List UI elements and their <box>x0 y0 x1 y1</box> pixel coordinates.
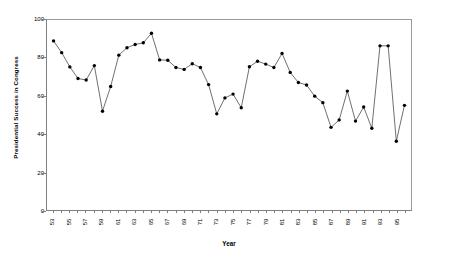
x-tick-label-text: 87 <box>329 219 335 226</box>
x-tick-label: 79 <box>261 214 271 238</box>
data-point <box>133 43 136 46</box>
x-tick-label-text: 73 <box>214 219 220 226</box>
data-point <box>321 101 324 104</box>
x-tick-label: 55 <box>64 214 74 238</box>
data-point <box>109 85 112 88</box>
x-tick-label: 63 <box>130 214 140 238</box>
data-point <box>378 44 381 47</box>
data-point <box>329 126 332 129</box>
x-tick-label: 87 <box>327 214 337 238</box>
x-tick-label: 83 <box>294 214 304 238</box>
x-tick-label: 95 <box>392 214 402 238</box>
line-series-svg <box>47 20 411 210</box>
x-tick-label-text: 79 <box>263 219 269 226</box>
x-tick-label: 61 <box>113 214 123 238</box>
data-point <box>142 41 145 44</box>
x-tick-label-text: 55 <box>66 219 72 226</box>
x-tick-label: 93 <box>376 214 386 238</box>
data-point <box>386 44 389 47</box>
data-point <box>289 71 292 74</box>
data-point <box>354 119 357 122</box>
series-markers <box>52 32 406 143</box>
x-tick-label: 81 <box>277 214 287 238</box>
y-axis-tick-labels: 020406080100 <box>24 19 44 210</box>
data-point <box>191 62 194 65</box>
x-tick-label: 73 <box>212 214 222 238</box>
data-point <box>207 83 210 86</box>
data-point <box>84 78 87 81</box>
data-point <box>199 66 202 69</box>
data-point <box>93 64 96 67</box>
data-point <box>264 62 267 65</box>
x-tick-label-text: 57 <box>82 219 88 226</box>
data-point <box>248 65 251 68</box>
data-point <box>337 118 340 121</box>
data-point <box>101 110 104 113</box>
x-tick-label-text: 89 <box>345 219 351 226</box>
x-tick-label: 77 <box>245 214 255 238</box>
x-axis-title: Year <box>46 240 412 247</box>
data-point <box>256 60 259 63</box>
data-point <box>395 140 398 143</box>
data-point <box>166 59 169 62</box>
x-tick-label-text: 95 <box>394 219 400 226</box>
x-tick-label-text: 71 <box>197 219 203 226</box>
x-tick-label-text: 83 <box>296 219 302 226</box>
x-tick-label-text: 53 <box>50 219 56 226</box>
data-point <box>297 81 300 84</box>
x-tick-label-text: 75 <box>230 219 236 226</box>
data-point <box>313 95 316 98</box>
x-tick-label-text: 61 <box>115 219 121 226</box>
x-tick-label-text: 91 <box>361 219 367 226</box>
series-line <box>54 33 405 141</box>
x-tick-label: 85 <box>310 214 320 238</box>
x-tick-label-text: 77 <box>247 219 253 226</box>
x-tick-label-text: 65 <box>148 219 154 226</box>
data-point <box>158 58 161 61</box>
x-tick-label-text: 93 <box>378 219 384 226</box>
x-tick-label-text: 85 <box>312 219 318 226</box>
x-tick-label: 75 <box>228 214 238 238</box>
data-point <box>125 46 128 49</box>
x-tick-label: 89 <box>343 214 353 238</box>
x-tick-label-text: 59 <box>99 219 105 226</box>
x-tick-label: 59 <box>97 214 107 238</box>
data-point <box>150 32 153 35</box>
data-point <box>231 92 234 95</box>
x-tick-label-text: 63 <box>132 219 138 226</box>
data-point <box>403 104 406 107</box>
x-tick-label-text: 67 <box>164 219 170 226</box>
data-point <box>362 105 365 108</box>
data-point <box>182 68 185 71</box>
data-point <box>346 89 349 92</box>
data-point <box>280 52 283 55</box>
y-axis-title-text: Presidential Success in Congress <box>12 56 19 159</box>
data-point <box>76 77 79 80</box>
data-point <box>240 106 243 109</box>
x-tick-label: 69 <box>179 214 189 238</box>
x-tick-label: 65 <box>146 214 156 238</box>
plot-area <box>46 19 412 211</box>
x-tick-label: 53 <box>48 214 58 238</box>
x-tick-label-text: 81 <box>279 219 285 226</box>
x-tick-label: 91 <box>359 214 369 238</box>
data-point <box>60 51 63 54</box>
data-point <box>370 127 373 130</box>
data-point <box>305 83 308 86</box>
data-point <box>174 66 177 69</box>
data-point <box>223 96 226 99</box>
x-tick-label: 71 <box>195 214 205 238</box>
x-tick-label-text: 69 <box>181 219 187 226</box>
data-point <box>272 66 275 69</box>
x-tick-label: 67 <box>162 214 172 238</box>
x-tick-label: 57 <box>80 214 90 238</box>
data-point <box>68 65 71 68</box>
x-axis-tick-labels: 5355575961636567697173757779818385878991… <box>46 212 412 238</box>
data-point <box>215 112 218 115</box>
data-point <box>117 53 120 56</box>
chart-figure: Presidential Success in Congress 0204060… <box>0 0 466 260</box>
data-point <box>52 39 55 42</box>
